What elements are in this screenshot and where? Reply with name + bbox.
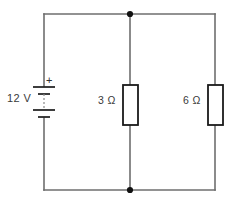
resistor-r1-symbol [123, 85, 138, 125]
resistor-r2-body [208, 85, 223, 125]
resistor-r1-body [123, 85, 138, 125]
battery-symbol [33, 87, 55, 117]
circuit-schematic [0, 0, 240, 205]
resistor-r1-value-label: 3 Ω [98, 95, 116, 106]
battery-positive-terminal-label: + [46, 75, 53, 86]
resistor-r2-value-label: 6 Ω [183, 95, 201, 106]
circuit-diagram-canvas: 12 V + 3 Ω 6 Ω [0, 0, 240, 205]
junction-node-bottom [127, 187, 133, 193]
resistor-r2-symbol [208, 85, 223, 125]
battery-value-label: 12 V [7, 93, 31, 104]
junction-node-top [127, 11, 133, 17]
